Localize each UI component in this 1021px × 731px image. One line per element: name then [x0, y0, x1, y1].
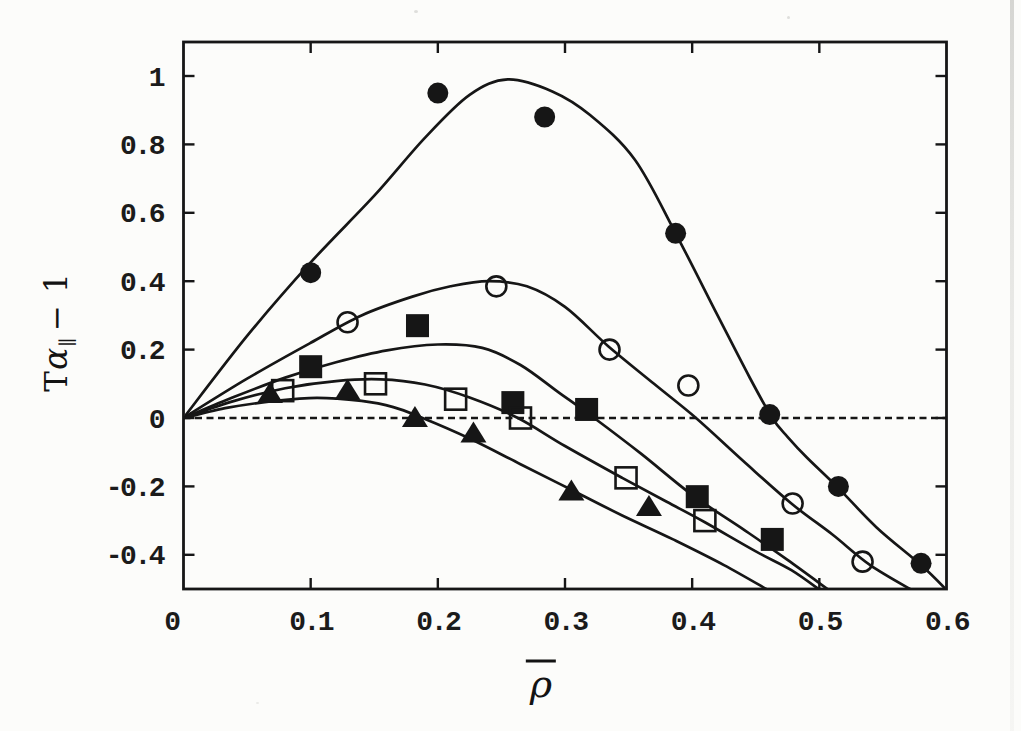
y-tick-label: -0.4 — [106, 541, 165, 572]
curve-filled-triangle — [184, 398, 773, 593]
y-tick-label: 0.6 — [120, 199, 165, 230]
x-tick-label: 0 — [164, 607, 180, 638]
marker-filled-circle — [534, 107, 555, 128]
curve-filled-square — [184, 344, 833, 592]
x-tick-label: 0.4 — [671, 607, 716, 638]
marker-filled-triangle — [460, 421, 486, 442]
y-tick-label: 0 — [149, 405, 165, 436]
marker-filled-square — [686, 485, 709, 508]
marker-filled-circle — [300, 262, 321, 283]
scanned-figure-page: 00.10.20.30.40.50.610.80.60.40.20-0.2-0.… — [0, 0, 1021, 731]
y-tick-label: 0.8 — [120, 131, 165, 162]
marker-open-square — [365, 373, 386, 394]
rho-symbol: ρ — [530, 662, 552, 706]
chart-canvas: 00.10.20.30.40.50.610.80.60.40.20-0.2-0.… — [0, 0, 1021, 731]
parallel-subscript: ∥ — [56, 338, 78, 347]
marker-filled-square — [575, 398, 598, 421]
x-tick-labels: 00.10.20.30.40.50.6 — [164, 607, 969, 638]
marker-filled-circle — [665, 223, 686, 244]
marker-filled-square — [761, 528, 784, 551]
y-axis-title: Tα∥− 1 — [36, 272, 78, 391]
marker-filled-triangle — [558, 480, 584, 501]
y-tick-label: -0.2 — [106, 473, 165, 504]
curve-filled-circle — [184, 79, 950, 592]
marker-open-circle — [600, 340, 620, 360]
x-tick-label: 0.6 — [925, 607, 970, 638]
x-tick-label: 0.3 — [544, 607, 589, 638]
marker-filled-circle — [759, 404, 780, 425]
marker-filled-square — [406, 314, 429, 337]
marker-open-circle — [853, 552, 873, 572]
y-tick-label: 0.2 — [120, 336, 165, 367]
marker-open-circle — [678, 376, 698, 396]
marker-filled-square — [501, 391, 524, 414]
marker-filled-square — [299, 355, 322, 378]
marker-filled-circle — [828, 476, 849, 497]
y-axis-title-minus-one: − 1 — [38, 272, 74, 331]
fitted-curves — [184, 79, 950, 592]
y-axis-title-T: T — [38, 370, 74, 392]
y-tick-label: 1 — [149, 63, 165, 94]
rho-overbar: ρ — [526, 660, 556, 703]
y-tick-label: 0.4 — [120, 268, 165, 299]
marker-filled-circle — [911, 553, 932, 574]
marker-filled-circle — [427, 83, 448, 104]
y-tick-labels: 10.80.60.40.20-0.2-0.4 — [106, 63, 165, 573]
alpha-symbol: α — [36, 347, 75, 370]
x-tick-label: 0.5 — [798, 607, 843, 638]
axis-ticks — [184, 42, 947, 589]
plot-frame — [184, 42, 947, 589]
x-axis-title: ρ — [526, 660, 556, 703]
x-tick-label: 0.2 — [416, 607, 461, 638]
x-tick-label: 0.1 — [289, 607, 334, 638]
marker-open-circle — [486, 276, 506, 296]
marker-filled-triangle — [402, 406, 428, 427]
